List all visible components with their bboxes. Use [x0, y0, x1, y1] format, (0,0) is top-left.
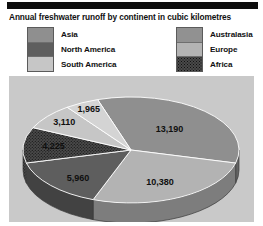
legend-swatch-north-america	[28, 43, 53, 58]
pie-label-australasia: 1,965	[77, 104, 100, 114]
legend-item-north-america: North America	[61, 42, 117, 57]
legend-column-left: Asia North America South America	[27, 27, 117, 72]
chart-legend: Asia North America South America Austral…	[0, 27, 263, 73]
pie-label-europe: 10,380	[146, 177, 174, 187]
legend-swatch-asia	[28, 28, 53, 43]
legend-item-asia: Asia	[61, 27, 117, 42]
legend-swatch-group-right	[176, 27, 203, 72]
legend-item-australasia: Australasia	[210, 27, 253, 42]
legend-swatch-africa	[177, 57, 202, 71]
legend-swatch-group-left	[27, 27, 54, 72]
legend-swatch-australasia	[177, 28, 202, 43]
pie-chart-panel: 13,19010,3805,9604,2253,1101,965	[9, 76, 254, 222]
legend-swatch-europe	[177, 43, 202, 58]
legend-label-group-right: Australasia Europe Africa	[210, 27, 253, 72]
header-rule	[7, 2, 258, 9]
pie-label-africa: 4,225	[42, 141, 65, 151]
pie-label-north-america: 5,960	[67, 173, 90, 183]
pie-chart: 13,19010,3805,9604,2253,1101,965	[9, 76, 254, 222]
pie-label-asia: 13,190	[156, 124, 184, 134]
legend-item-south-america: South America	[61, 57, 117, 72]
legend-label-group-left: Asia North America South America	[61, 27, 117, 72]
pie-label-south-america: 3,110	[53, 117, 75, 127]
page-title: Annual freshwater runoff by continent in…	[9, 12, 259, 22]
legend-item-europe: Europe	[210, 42, 253, 57]
legend-item-africa: Africa	[210, 57, 253, 72]
legend-column-right: Australasia Europe Africa	[176, 27, 253, 72]
legend-swatch-south-america	[28, 57, 53, 71]
